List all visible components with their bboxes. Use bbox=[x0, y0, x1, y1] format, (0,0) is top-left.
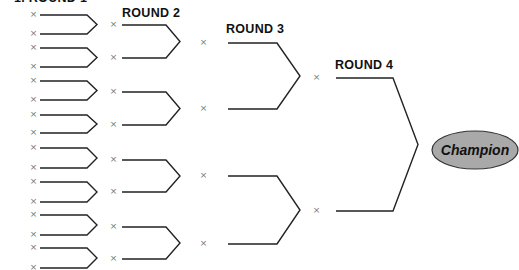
matchup-connector bbox=[40, 15, 97, 34]
slot-marker: × bbox=[312, 73, 321, 82]
slot-marker: × bbox=[29, 177, 38, 186]
matchup-connector bbox=[40, 215, 97, 235]
slot-marker: × bbox=[29, 76, 38, 85]
slot-marker: × bbox=[109, 120, 118, 129]
matchup-connector bbox=[122, 92, 180, 125]
matchup-connector bbox=[228, 43, 300, 109]
slot-marker: × bbox=[29, 62, 38, 71]
slot-marker: × bbox=[29, 128, 38, 137]
slot-marker: × bbox=[199, 171, 208, 180]
slot-marker: × bbox=[312, 206, 321, 215]
champion-label: Champion bbox=[432, 142, 518, 158]
slot-marker: × bbox=[109, 254, 118, 263]
slot-marker: × bbox=[29, 263, 38, 270]
slot-marker: × bbox=[109, 87, 118, 96]
bracket-lines bbox=[0, 0, 519, 270]
matchup-connector bbox=[122, 160, 180, 192]
matchup-connector bbox=[122, 227, 180, 259]
slot-marker: × bbox=[109, 187, 118, 196]
slot-marker: × bbox=[29, 10, 38, 19]
matchup-connector bbox=[40, 148, 97, 168]
matchup-connector bbox=[40, 48, 97, 67]
slot-marker: × bbox=[29, 243, 38, 252]
slot-marker: × bbox=[199, 239, 208, 248]
matchup-connector bbox=[122, 25, 180, 58]
slot-marker: × bbox=[199, 38, 208, 47]
slot-marker: × bbox=[109, 222, 118, 231]
slot-marker: × bbox=[109, 155, 118, 164]
slot-marker: × bbox=[29, 143, 38, 152]
matchup-connector bbox=[40, 81, 97, 100]
matchup-connector bbox=[336, 78, 418, 211]
matchup-connector bbox=[40, 248, 97, 268]
matchup-connector bbox=[40, 115, 97, 133]
slot-marker: × bbox=[29, 43, 38, 52]
slot-marker: × bbox=[199, 104, 208, 113]
tournament-bracket: 1. ROUND 1 ROUND 2 ROUND 3 ROUND 4 ×××××… bbox=[0, 0, 519, 270]
slot-marker: × bbox=[29, 163, 38, 172]
slot-marker: × bbox=[29, 110, 38, 119]
slot-marker: × bbox=[29, 95, 38, 104]
slot-marker: × bbox=[29, 29, 38, 38]
slot-marker: × bbox=[109, 20, 118, 29]
slot-marker: × bbox=[109, 53, 118, 62]
matchup-connector bbox=[228, 176, 300, 244]
slot-marker: × bbox=[29, 210, 38, 219]
matchup-connector bbox=[40, 182, 97, 202]
slot-marker: × bbox=[29, 230, 38, 239]
slot-marker: × bbox=[29, 197, 38, 206]
